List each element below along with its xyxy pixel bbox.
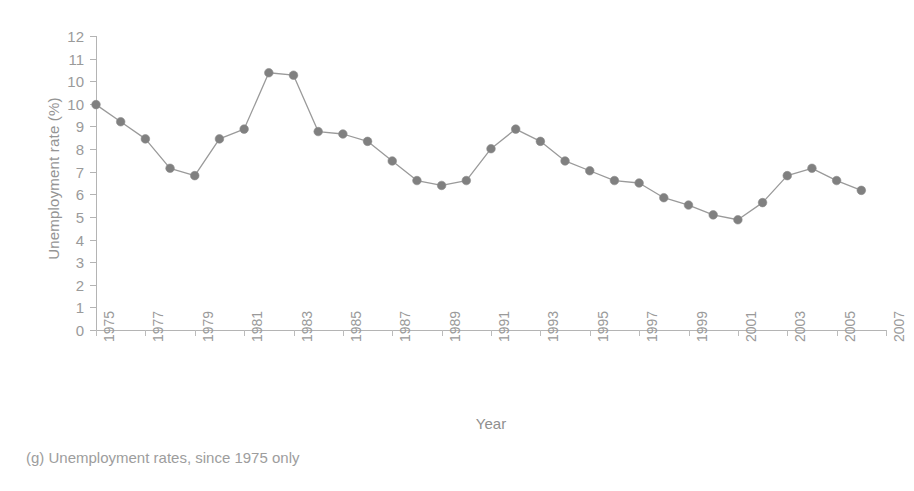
plot-area: 121110109876543210 197519771979198119831…: [96, 36, 886, 330]
data-point-marker: [734, 215, 743, 224]
series-line-unemployment: [96, 73, 861, 220]
y-axis-tick-label: 6: [44, 187, 84, 202]
series-layer: [96, 36, 886, 331]
y-axis-tick-label: 10: [44, 97, 84, 112]
data-point-marker: [190, 171, 199, 180]
data-point-marker: [289, 71, 298, 80]
data-point-marker: [437, 181, 446, 190]
data-point-marker: [684, 201, 693, 210]
data-point-marker: [413, 176, 422, 185]
data-point-marker: [561, 157, 570, 166]
data-point-marker: [240, 125, 249, 134]
y-axis-tick-label: 9: [44, 119, 84, 134]
y-axis-tick-label: 7: [44, 165, 84, 180]
data-point-marker: [215, 135, 224, 144]
data-point-marker: [783, 171, 792, 180]
y-axis-tick-label: 11: [44, 52, 84, 67]
data-point-marker: [635, 179, 644, 188]
y-axis-tick-label: 10: [44, 74, 84, 89]
y-axis-tick-label: 4: [44, 233, 84, 248]
data-point-marker: [610, 176, 619, 185]
data-point-marker: [511, 125, 520, 134]
data-point-marker: [832, 176, 841, 185]
series-markers: [92, 68, 866, 224]
y-axis-tick-label: 0: [44, 323, 84, 338]
y-axis-tick-label: 1: [44, 300, 84, 315]
data-point-marker: [388, 157, 397, 166]
data-point-marker: [857, 186, 866, 195]
y-axis-tick-label: 12: [44, 29, 84, 44]
data-point-marker: [758, 198, 767, 207]
data-point-marker: [166, 164, 175, 173]
figure-caption: (g) Unemployment rates, since 1975 only: [26, 449, 299, 466]
data-point-marker: [808, 164, 817, 173]
y-axis-tick-label: 3: [44, 255, 84, 270]
data-point-marker: [265, 68, 274, 77]
data-point-marker: [116, 117, 125, 126]
y-axis-tick-label: 2: [44, 278, 84, 293]
data-point-marker: [487, 144, 496, 153]
y-axis-tick-label: 8: [44, 142, 84, 157]
line-chart-svg: [96, 36, 886, 331]
data-point-marker: [363, 137, 372, 146]
data-point-marker: [709, 211, 718, 220]
data-point-marker: [536, 137, 545, 146]
data-point-marker: [462, 176, 471, 185]
data-point-marker: [314, 127, 323, 136]
data-point-marker: [660, 193, 669, 202]
y-axis-tick-label: 5: [44, 210, 84, 225]
data-point-marker: [585, 166, 594, 175]
data-point-marker: [141, 135, 150, 144]
figure-container: Unemployment rate (%) 121110109876543210…: [0, 0, 914, 491]
data-point-marker: [339, 130, 348, 139]
x-axis-tick: [886, 330, 887, 336]
x-axis-tick-label: 2007: [892, 311, 906, 342]
data-point-marker: [92, 100, 101, 109]
x-axis-title: Year: [96, 415, 886, 432]
